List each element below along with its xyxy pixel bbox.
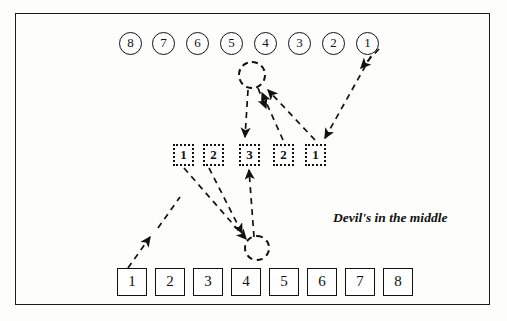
circled-number-3[interactable]: 3 <box>288 32 311 55</box>
solid-square-5[interactable]: 5 <box>269 268 299 296</box>
solid-square-8[interactable]: 8 <box>383 268 413 296</box>
dashed-square-2-right[interactable]: 2 <box>273 144 294 166</box>
circled-number-5[interactable]: 5 <box>220 32 243 55</box>
bottom-empty-slot <box>244 235 270 261</box>
solid-square-7[interactable]: 7 <box>345 268 375 296</box>
circled-number-8[interactable]: 8 <box>119 32 142 55</box>
dashed-square-2-left[interactable]: 2 <box>203 144 224 166</box>
solid-square-2[interactable]: 2 <box>155 268 185 296</box>
solid-square-4[interactable]: 4 <box>231 268 261 296</box>
circled-number-1[interactable]: 1 <box>356 32 379 55</box>
dashed-square-1-right[interactable]: 1 <box>305 144 326 166</box>
top-empty-slot <box>238 61 266 89</box>
solid-square-1[interactable]: 1 <box>117 268 147 296</box>
dashed-square-3-center[interactable]: 3 <box>239 144 260 166</box>
solid-square-6[interactable]: 6 <box>307 268 337 296</box>
dashed-square-1-left[interactable]: 1 <box>173 144 194 166</box>
solid-square-3[interactable]: 3 <box>193 268 223 296</box>
circled-number-7[interactable]: 7 <box>152 32 175 55</box>
circled-number-2[interactable]: 2 <box>322 32 345 55</box>
circled-number-4[interactable]: 4 <box>254 32 277 55</box>
figure-caption: Devil's in the middle <box>333 210 447 226</box>
circled-number-6[interactable]: 6 <box>186 32 209 55</box>
figure-canvas: 8 7 6 5 4 3 2 1 1 2 3 2 1 1 2 3 4 5 6 7 … <box>0 0 507 321</box>
